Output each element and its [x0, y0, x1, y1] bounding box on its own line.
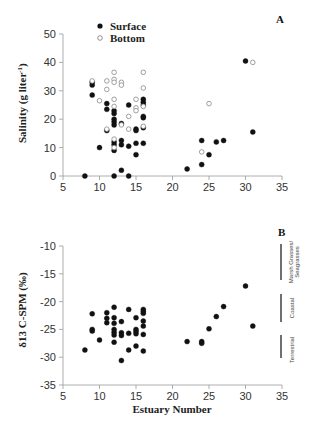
data-point-filled: [126, 307, 131, 312]
panel-b-axes: -10-15-20-25-30-355101520253035: [40, 240, 288, 402]
data-point-filled: [104, 310, 109, 315]
y-tick-label: 30: [44, 85, 56, 97]
x-tick-label: 5: [60, 181, 66, 193]
data-point-filled: [141, 319, 146, 324]
data-point-open: [134, 97, 139, 102]
data-point-filled: [126, 348, 131, 353]
data-point-filled: [134, 331, 139, 336]
data-point-filled: [126, 144, 131, 149]
data-point-open: [105, 127, 110, 132]
data-point-filled: [207, 326, 212, 331]
data-point-filled: [112, 122, 117, 127]
x-tick-label: 35: [276, 390, 288, 402]
data-point-open: [112, 70, 117, 75]
data-point-open: [119, 83, 124, 88]
data-point-open: [126, 127, 131, 132]
y-tick-label: 40: [44, 56, 56, 68]
data-point-open: [126, 114, 131, 119]
data-point-filled: [119, 358, 124, 363]
data-point-open: [112, 104, 117, 109]
data-point-filled: [250, 130, 255, 135]
data-point-filled: [243, 284, 248, 289]
legend-bottom-marker: [98, 36, 103, 41]
legend-surface-label: Surface: [110, 20, 146, 32]
data-point-open: [251, 60, 256, 65]
data-point-filled: [214, 139, 219, 144]
data-point-filled: [112, 174, 117, 179]
data-point-open: [105, 79, 110, 84]
panel-b-ylabel: δ13 C-SPM (‰): [16, 272, 29, 348]
coastal-label: Coastal: [289, 298, 295, 318]
legend-surface-marker: [97, 23, 102, 28]
data-point-filled: [221, 304, 226, 309]
data-point-filled: [141, 332, 146, 337]
y-tick-label: -15: [40, 268, 56, 280]
x-tick-label: 5: [60, 390, 66, 402]
data-point-open: [105, 87, 110, 92]
y-tick-label: -20: [40, 296, 56, 308]
data-point-filled: [199, 341, 204, 346]
data-point-filled: [126, 174, 131, 179]
data-point-filled: [141, 324, 146, 329]
data-point-filled: [90, 329, 95, 334]
data-point-filled: [199, 138, 204, 143]
data-point-open: [112, 80, 117, 85]
data-point-filled: [126, 103, 131, 108]
data-point-filled: [119, 333, 124, 338]
data-point-filled: [134, 141, 139, 146]
data-point-filled: [82, 348, 87, 353]
data-point-filled: [250, 324, 255, 329]
data-point-filled: [141, 141, 146, 146]
data-point-filled: [112, 333, 117, 338]
data-point-filled: [112, 315, 117, 320]
panel-b-points: [82, 284, 255, 364]
data-point-open: [119, 123, 124, 128]
data-point-filled: [243, 59, 248, 64]
x-tick-label: 10: [93, 181, 105, 193]
panel-b-label: B: [278, 226, 286, 238]
panel-a-label: A: [276, 13, 284, 25]
y-tick-label: -35: [40, 379, 56, 391]
terrestrial-label: Terrestrial: [289, 337, 295, 363]
x-tick-label: 15: [130, 390, 142, 402]
source-range-annotations: Marsh Grasses/ Seagrasses Coastal Terres…: [281, 240, 300, 363]
y-tick-label: 0: [50, 170, 56, 182]
y-tick-label: -30: [40, 351, 56, 363]
data-point-filled: [221, 138, 226, 143]
data-point-filled: [104, 320, 109, 325]
x-tick-label: 10: [93, 390, 105, 402]
x-tick-label: 30: [239, 181, 251, 193]
data-point-filled: [134, 152, 139, 157]
data-point-filled: [104, 107, 109, 112]
panel-a-points: [82, 59, 255, 179]
data-point-filled: [97, 145, 102, 150]
x-tick-label: 20: [166, 390, 178, 402]
data-point-filled: [119, 142, 124, 147]
data-point-filled: [185, 339, 190, 344]
data-point-filled: [82, 174, 87, 179]
data-point-open: [141, 104, 146, 109]
x-tick-label: 25: [203, 390, 215, 402]
data-point-filled: [141, 349, 146, 354]
chart-canvas: A 010203040505101520253035 Surface Botto…: [0, 0, 316, 433]
y-tick-label: 10: [44, 142, 56, 154]
x-tick-label: 35: [276, 181, 288, 193]
panel-b-xlabel: Estuary Number: [132, 403, 211, 415]
data-point-filled: [199, 162, 204, 167]
data-point-open: [141, 124, 146, 129]
data-point-open: [141, 70, 146, 75]
data-point-filled: [112, 305, 117, 310]
data-point-open: [97, 98, 102, 103]
x-tick-label: 20: [166, 181, 178, 193]
panel-a-ylabel: Salinity (g liter-1): [16, 63, 29, 143]
data-point-filled: [141, 115, 146, 120]
panel-a-salinity: A 010203040505101520253035 Surface Botto…: [16, 13, 288, 193]
data-point-filled: [112, 340, 117, 345]
legend: Surface Bottom: [97, 20, 146, 44]
data-point-open: [199, 150, 204, 155]
y-tick-label: 50: [44, 28, 56, 40]
data-point-filled: [134, 128, 139, 133]
ylabel-close: ): [16, 63, 29, 67]
legend-bottom-label: Bottom: [110, 32, 145, 44]
ylabel-text: Salinity (g liter: [16, 73, 29, 143]
